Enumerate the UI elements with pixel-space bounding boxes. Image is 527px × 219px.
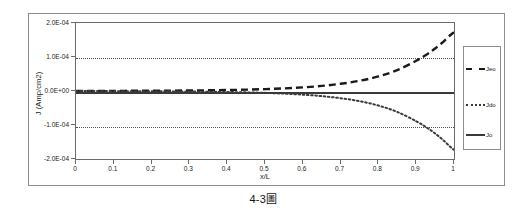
legend-line-glyph	[466, 134, 485, 136]
legend-item-jdo[interactable]: Jdo	[464, 98, 500, 112]
series-path-jeo	[76, 32, 454, 91]
x-axis-tick-mark	[75, 160, 76, 164]
legend-item-jeo[interactable]: Jeo	[464, 62, 500, 76]
y-axis-tick: -1.0E-04	[44, 121, 69, 128]
x-axis-title-label: x/L	[260, 172, 270, 181]
legend-swatch-jo-icon	[466, 130, 485, 140]
series-path-jdo	[76, 91, 454, 150]
x-axis-tick-mark	[453, 160, 454, 164]
x-axis-title: x/L	[75, 172, 455, 181]
y-axis-tick: 0.0E+00	[45, 87, 69, 94]
x-axis-tick-mark	[302, 160, 303, 164]
gridline-upper	[76, 58, 454, 59]
x-axis-tick-mark	[377, 160, 378, 164]
plot-area	[75, 22, 455, 160]
gridline-lower	[76, 127, 454, 128]
x-axis-tick-mark	[188, 160, 189, 164]
y-axis-tick: 1.0E-04	[46, 53, 69, 60]
y-axis-tick-labels: 2.0E-041.0E-040.0E+00-1.0E-04-2.0E-04	[28, 13, 75, 186]
x-axis-tick-mark	[264, 160, 265, 164]
x-axis-tick-mark	[415, 160, 416, 164]
figure-caption-text: 4-3圖	[249, 193, 277, 205]
figure-container: J (Amp/cm2) 2.0E-041.0E-040.0E+00-1.0E-0…	[0, 0, 527, 219]
y-axis-tick: -2.0E-04	[44, 155, 69, 162]
figure-caption: 4-3圖	[0, 190, 527, 206]
x-axis-tick-mark	[113, 160, 114, 164]
legend-line-glyph	[466, 68, 485, 70]
legend-swatch-jeo-icon	[466, 64, 485, 74]
x-axis-tick-mark	[340, 160, 341, 164]
legend-item-jo[interactable]: Jo	[464, 128, 500, 142]
legend-label-jeo: Jeo	[486, 66, 495, 72]
chart-legend: JeoJdoJo	[463, 46, 501, 150]
legend-line-glyph	[466, 104, 485, 106]
y-axis-tick: 2.0E-04	[46, 19, 69, 26]
legend-label-jo: Jo	[486, 132, 492, 138]
legend-swatch-jdo-icon	[466, 100, 485, 110]
x-axis-tick-mark	[226, 160, 227, 164]
legend-label-jdo: Jdo	[486, 102, 495, 108]
series-line-jo	[76, 92, 454, 94]
x-axis-tick-mark	[151, 160, 152, 164]
data-curves	[76, 23, 454, 159]
